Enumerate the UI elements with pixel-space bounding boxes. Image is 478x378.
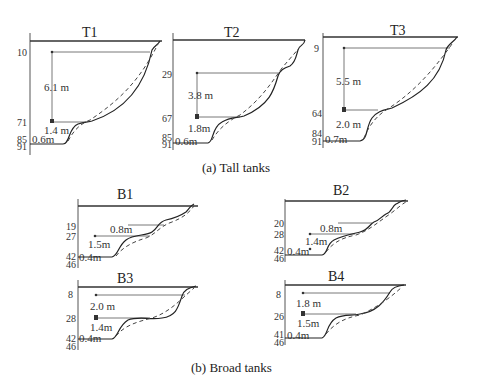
tank-title: T2: [224, 25, 240, 40]
tank-profiles-figure: T1 10 71 85 91 6.1 m 1.4 m 0.6m T2 29 67…: [0, 0, 478, 378]
dimension-label: 3.8 m: [188, 89, 214, 101]
level-marker: [94, 315, 98, 320]
depth-tick: 8: [276, 289, 281, 300]
dimension-label: 1.5m: [88, 238, 111, 250]
depth-tick: 71: [17, 117, 27, 128]
tank-b1: B1 19 27 42 46 0.8m 1.5m 0.4m: [66, 187, 198, 270]
depth-tick: 28: [66, 313, 76, 324]
level-marker: [94, 235, 97, 238]
tank-title: B3: [117, 271, 133, 286]
dimension-label: 1.5m: [297, 317, 320, 329]
tank-b3: B3 8 28 42 46 2.0 m 1.4m 0.4m: [66, 271, 198, 352]
level-marker: [95, 294, 98, 297]
dimension-label: 5.5 m: [336, 75, 362, 87]
depth-tick: 8: [68, 289, 73, 300]
idealised-profile: [364, 44, 452, 138]
idealised-profile: [212, 44, 302, 140]
dimension-label: 0.6m: [32, 133, 55, 145]
depth-tick: 67: [162, 113, 172, 124]
depth-tick: 46: [66, 259, 76, 270]
dimension-label: 2.0 m: [90, 300, 116, 312]
tank-title: B1: [117, 187, 133, 202]
tank-t1: T1 10 71 85 91 6.1 m 1.4 m 0.6m: [17, 25, 162, 155]
dimension-label: 1.8 m: [296, 297, 322, 309]
tank-title: T3: [390, 23, 406, 38]
tank-b2: B2 20 28 42 46 0.8m 1.4m 0.4m: [274, 183, 408, 264]
figure-caption-tall: (a) Tall tanks: [202, 160, 270, 175]
depth-tick: 64: [312, 108, 322, 119]
depth-tick: 91: [162, 139, 172, 150]
dimension-label: 1.8m: [188, 122, 211, 134]
figure-caption-broad: (b) Broad tanks: [191, 360, 272, 375]
level-marker: [302, 292, 305, 295]
level-marker: [343, 47, 346, 50]
dimension-label: 0.8m: [320, 222, 343, 234]
dimension-label: 0.4m: [287, 329, 310, 341]
depth-tick: 29: [162, 69, 172, 80]
tank-title: B2: [333, 183, 349, 198]
depth-tick: 9: [314, 43, 319, 54]
depth-tick: 20: [274, 218, 284, 229]
tank-t2: T2 29 67 85 91 3.8 m 1.8m 0.6m: [162, 25, 305, 150]
depth-tick: 46: [274, 337, 284, 348]
depth-tick: 46: [66, 341, 76, 352]
level-marker: [301, 311, 305, 316]
level-marker: [196, 72, 199, 75]
dimension-label: 2.0 m: [336, 118, 362, 130]
depth-tick: 91: [17, 141, 27, 152]
dimension-label: 0.6m: [175, 135, 198, 147]
depth-tick: 27: [66, 231, 76, 242]
dimension-label: 0.8m: [110, 223, 133, 235]
depth-tick: 26: [274, 311, 284, 322]
depth-tick: 28: [274, 229, 284, 240]
depth-tick: 91: [312, 136, 322, 147]
tank-title: B4: [328, 269, 344, 284]
depth-tick: 10: [17, 47, 27, 58]
level-marker: [50, 119, 54, 123]
dimension-label: 0.4m: [79, 332, 102, 344]
tank-b4: B4 8 26 41 46 1.8 m 1.5m 0.4m (b) Broad …: [191, 269, 406, 375]
level-marker: [342, 107, 346, 112]
tank-t3: T3 9 64 84 91 5.5 m 2.0 m 0.7m (a) Tall …: [202, 23, 458, 175]
dimension-label: 0.7m: [325, 133, 348, 145]
dimension-label: 6.1 m: [44, 81, 70, 93]
idealised-profile: [326, 287, 402, 334]
depth-tick: 46: [274, 253, 284, 264]
idealised-profile: [68, 44, 158, 141]
level-marker: [51, 51, 54, 54]
level-marker: [195, 114, 199, 119]
tank-title: T1: [82, 25, 98, 40]
